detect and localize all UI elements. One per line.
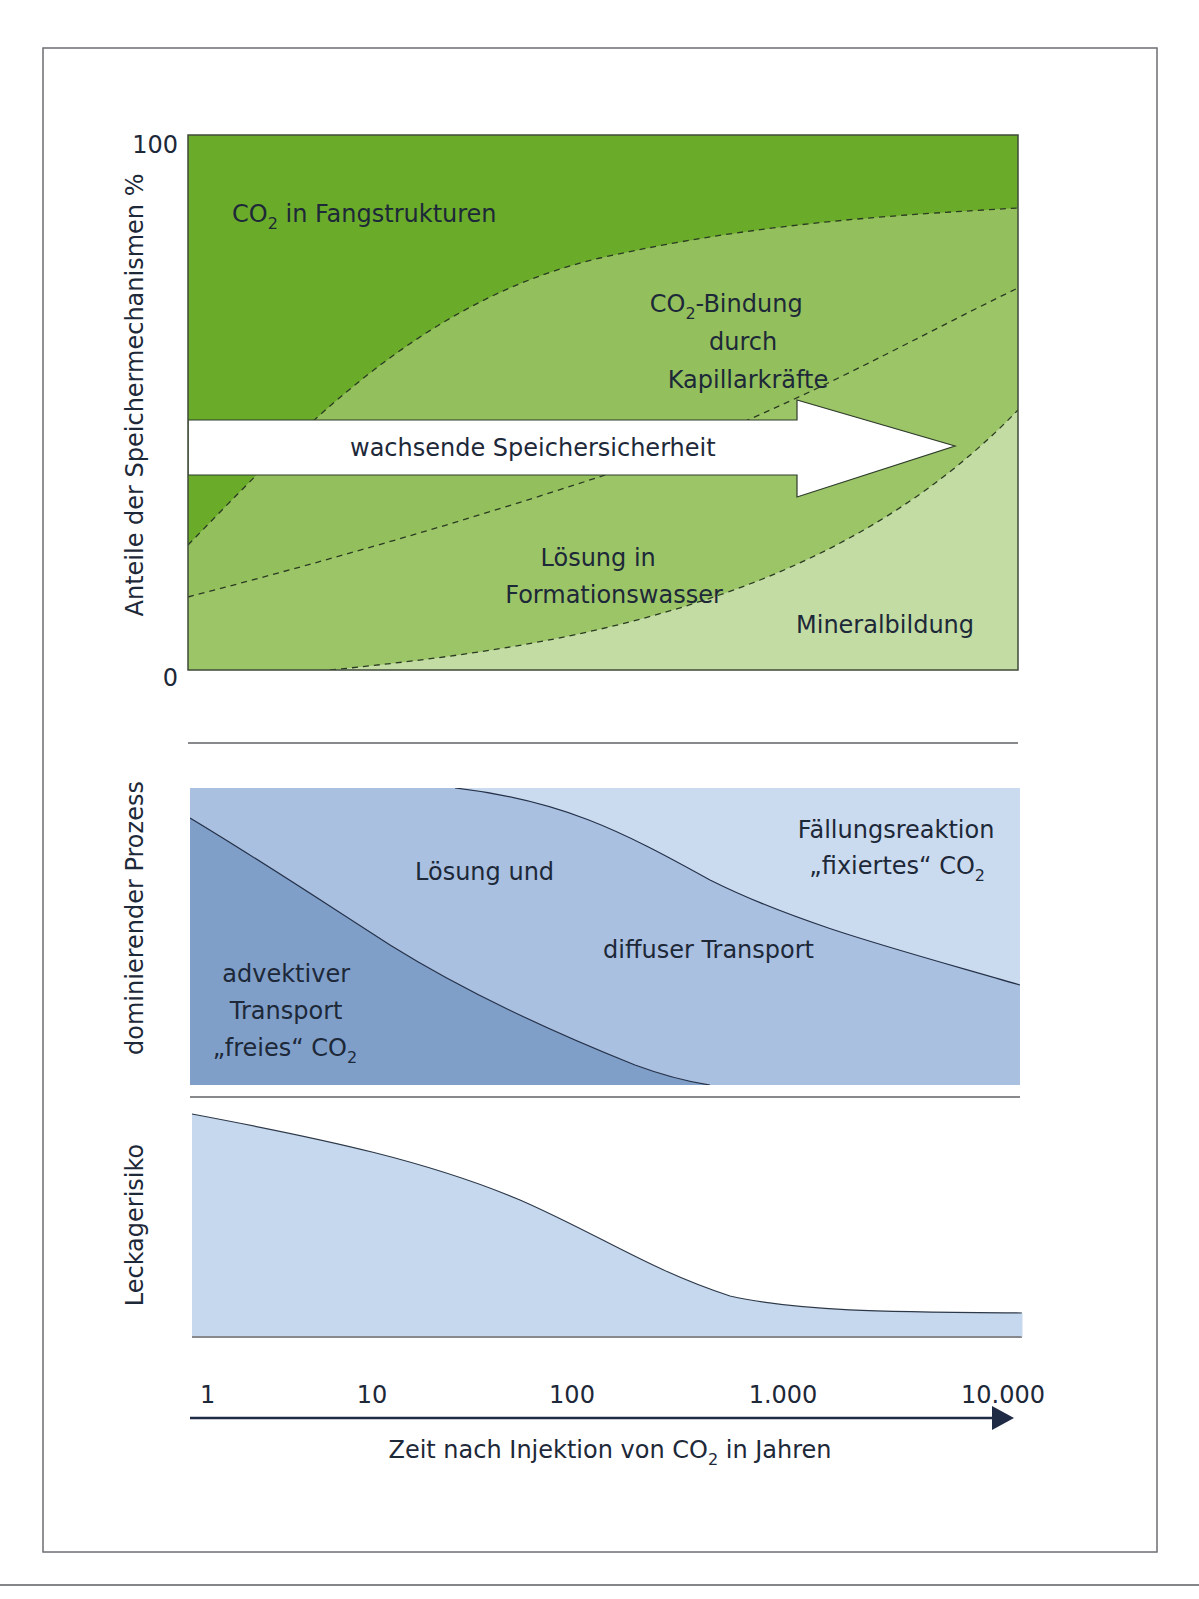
x-tick-10: 10 <box>357 1381 388 1409</box>
label-mineral: Mineralbildung <box>796 611 974 639</box>
y-tick-0: 0 <box>163 664 178 692</box>
y-tick-100: 100 <box>132 131 178 159</box>
y-axis-title-storage: Anteile der Speichermechanismen % <box>121 174 149 617</box>
x-tick-10000: 10.000 <box>961 1381 1045 1409</box>
y-axis-title-process: dominierender Prozess <box>121 781 149 1055</box>
label-advective: advektiver Transport „freies“ CO2 <box>213 960 358 1067</box>
x-tick-1: 1 <box>200 1381 215 1409</box>
y-axis-title-leak: Leckagerisiko <box>121 1144 149 1307</box>
time-axis-arrowhead-icon <box>992 1406 1014 1430</box>
co2-storage-figure: CO2 in Fangstrukturen CO2-Bindung durch … <box>0 0 1199 1599</box>
x-tick-1000: 1.000 <box>749 1381 818 1409</box>
x-axis-title: Zeit nach Injektion von CO2 in Jahren <box>388 1436 831 1469</box>
arrow-label: wachsende Speichersicherheit <box>350 434 716 462</box>
x-tick-100: 100 <box>549 1381 595 1409</box>
label-diffuse-line2: diffuser Transport <box>603 936 814 964</box>
label-diffuse-line1: Lösung und <box>415 858 554 886</box>
leak-risk-area <box>192 1114 1022 1336</box>
